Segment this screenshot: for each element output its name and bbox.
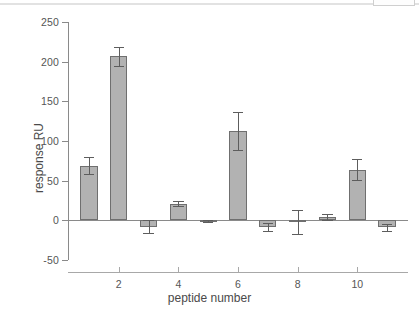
error-bar — [89, 157, 90, 174]
x-tick — [357, 267, 358, 272]
y-tick-label: 150 — [41, 95, 59, 107]
error-bar — [149, 220, 150, 233]
y-tick — [62, 62, 68, 63]
plot-area: 250200150100500-50 246810 — [68, 22, 408, 262]
error-bar-cap — [263, 223, 273, 224]
error-bar-cap — [322, 220, 332, 221]
error-bar-cap — [143, 233, 153, 234]
y-tick — [62, 260, 68, 261]
error-bar-cap — [84, 174, 94, 175]
x-axis-title: peptide number — [0, 291, 419, 305]
x-tick-label: 4 — [175, 278, 181, 290]
error-bar-cap — [233, 112, 243, 113]
error-bar-cap — [263, 231, 273, 232]
y-tick-label: 0 — [53, 214, 59, 226]
error-bar-cap — [322, 214, 332, 215]
error-bar-cap — [203, 222, 213, 223]
error-bar — [268, 223, 269, 231]
y-tick-label: -50 — [43, 254, 59, 266]
x-tick-label: 8 — [295, 278, 301, 290]
error-bar — [119, 47, 120, 66]
chart-figure: response RU 250200150100500-50 246810 pe… — [0, 0, 419, 315]
error-bar-cap — [173, 201, 183, 202]
y-tick-label: 250 — [41, 16, 59, 28]
scan-artifact-corner — [373, 0, 415, 6]
error-bar-cap — [84, 157, 94, 158]
y-tick-label: 50 — [47, 175, 59, 187]
error-bar-cap — [292, 210, 302, 211]
error-bar-cap — [352, 180, 362, 181]
y-axis-title: response RU — [32, 122, 46, 192]
scan-artifact-line — [0, 3, 419, 5]
error-bar-cap — [382, 224, 392, 225]
y-tick — [62, 181, 68, 182]
y-tick — [62, 141, 68, 142]
error-bar-cap — [233, 150, 243, 151]
error-bar-cap — [173, 206, 183, 207]
x-tick-label: 6 — [235, 278, 241, 290]
x-axis-line — [68, 272, 408, 273]
x-tick — [119, 267, 120, 272]
x-tick-label: 10 — [351, 278, 363, 290]
error-bar-cap — [292, 234, 302, 235]
error-bar-cap — [352, 159, 362, 160]
x-tick — [238, 267, 239, 272]
y-tick-label: 100 — [41, 135, 59, 147]
y-tick — [62, 22, 68, 23]
error-bar — [357, 159, 358, 180]
error-bar-cap — [143, 220, 153, 221]
bar — [110, 56, 127, 220]
zero-line — [68, 220, 408, 221]
y-axis-line — [68, 22, 69, 260]
y-tick-label: 200 — [41, 56, 59, 68]
x-tick — [178, 267, 179, 272]
error-bar-cap — [114, 66, 124, 67]
error-bar — [387, 224, 388, 232]
x-tick — [298, 267, 299, 272]
error-bar-cap — [114, 47, 124, 48]
error-bar — [298, 210, 299, 234]
x-tick-label: 2 — [116, 278, 122, 290]
error-bar — [238, 112, 239, 150]
error-bar-cap — [382, 231, 392, 232]
y-tick — [62, 101, 68, 102]
